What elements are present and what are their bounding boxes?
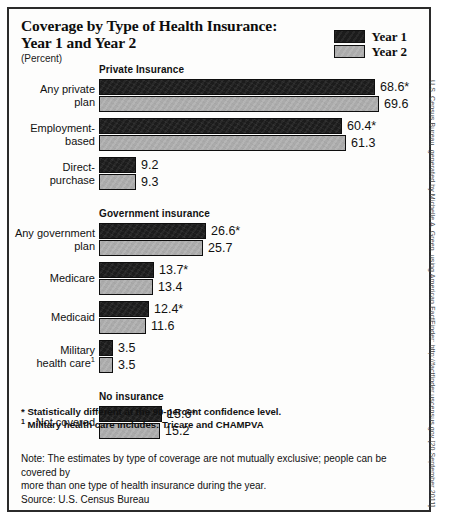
bar-value-label: 69.6 xyxy=(379,96,408,112)
category-label: Any governmentplan xyxy=(9,227,95,252)
bar-year-2 xyxy=(99,240,203,256)
bar-year-1 xyxy=(99,223,206,239)
bar-year-1 xyxy=(99,79,375,95)
category-label: Militaryhealth care1 xyxy=(9,344,95,369)
footnote-asterisk: * Statistically different at the 90-perc… xyxy=(21,405,416,418)
bar-year-2 xyxy=(99,357,113,373)
chart-legend: Year 1Year 2 xyxy=(334,30,407,58)
page-title-line2: Year 1 and Year 2 xyxy=(21,34,311,51)
footnote-military-text: Military health care includes: Tricare a… xyxy=(25,419,264,430)
bar-value-label: 13.4 xyxy=(153,279,182,295)
category-label-line: plan xyxy=(9,96,95,109)
category-label-line: purchase xyxy=(9,174,95,187)
bar-value-label: 3.5 xyxy=(113,340,135,356)
bar-year-1 xyxy=(99,301,149,317)
bar-year-2 xyxy=(99,279,153,295)
bar-value-label: 61.3 xyxy=(346,135,375,151)
category-label-line: health care1 xyxy=(9,357,95,370)
group-header: No insurance xyxy=(99,391,164,402)
category-label-line: Military xyxy=(9,344,95,357)
note-line-1: Note: The estimates by type of coverage … xyxy=(21,452,419,479)
bar-value-label: 9.2 xyxy=(136,157,158,173)
notes-block: Note: The estimates by type of coverage … xyxy=(21,452,419,506)
chart-plot-area: Private InsuranceAny privateplan68.6*69.… xyxy=(9,64,429,394)
bar-year-2 xyxy=(99,174,136,190)
legend-item-2: Year 2 xyxy=(334,45,407,58)
category-label-line: Any private xyxy=(9,83,95,96)
footnotes-block: * Statistically different at the 90-perc… xyxy=(21,405,416,431)
note-line-2: more than one type of health insurance d… xyxy=(21,479,419,493)
category-label-line: plan xyxy=(9,240,95,253)
bar-year-2 xyxy=(99,96,379,112)
category-label: Employment-based xyxy=(9,122,95,147)
bar-year-2 xyxy=(99,318,146,334)
category-label-line: Medicare xyxy=(9,272,95,285)
credit-vertical-text: U.S. Census Bureau, generated by Michell… xyxy=(428,80,437,500)
legend-label: Year 2 xyxy=(371,45,407,58)
bar-value-label: 68.6* xyxy=(375,79,409,95)
legend-swatch-icon xyxy=(334,45,365,58)
category-label-line: Medicaid xyxy=(9,311,95,324)
bar-value-label: 60.4* xyxy=(342,118,376,134)
category-label-line: based xyxy=(9,135,95,148)
category-label-line: Any government xyxy=(9,227,95,240)
group-header: Private Insurance xyxy=(99,64,184,75)
category-label: Direct-purchase xyxy=(9,161,95,186)
bar-value-label: 11.6 xyxy=(146,318,174,334)
category-label: Medicare xyxy=(9,272,95,285)
source-line: Source: U.S. Census Bureau xyxy=(21,493,419,507)
bar-year-1 xyxy=(99,262,154,278)
page-title-line1: Coverage by Type of Health Insurance: xyxy=(21,17,311,34)
group-header: Government insurance xyxy=(99,208,210,219)
category-label: Any privateplan xyxy=(9,83,95,108)
category-label-line: Direct- xyxy=(9,161,95,174)
category-label: Medicaid xyxy=(9,311,95,324)
bar-value-label: 26.6* xyxy=(206,223,240,239)
bar-year-1 xyxy=(99,118,342,134)
category-label-superscript: 1 xyxy=(91,355,95,364)
bar-value-label: 13.7* xyxy=(154,262,188,278)
bar-year-1 xyxy=(99,157,136,173)
legend-label: Year 1 xyxy=(371,30,407,43)
bar-year-1 xyxy=(99,340,113,356)
figure-frame: Coverage by Type of Health Insurance: Ye… xyxy=(7,7,431,512)
category-label-line: Employment- xyxy=(9,122,95,135)
bar-value-label: 12.4* xyxy=(149,301,183,317)
bar-year-2 xyxy=(99,135,346,151)
legend-item-1: Year 1 xyxy=(334,30,407,43)
bar-value-label: 25.7 xyxy=(203,240,232,256)
title-block: Coverage by Type of Health Insurance: Ye… xyxy=(21,17,311,65)
footnote-military: 1 Military health care includes: Tricare… xyxy=(21,418,416,431)
legend-swatch-icon xyxy=(334,30,365,43)
bar-value-label: 3.5 xyxy=(113,357,135,373)
bar-value-label: 9.3 xyxy=(136,174,158,190)
